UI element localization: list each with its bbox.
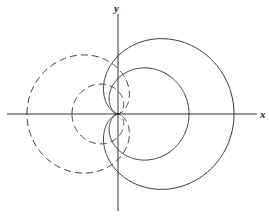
x-axis-label: x xyxy=(259,108,266,120)
cardioid-diagram: x y xyxy=(0,0,269,219)
y-axis-label: y xyxy=(112,2,119,14)
